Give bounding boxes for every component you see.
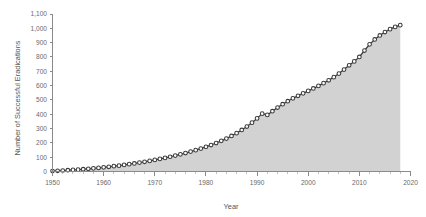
data-point-marker [184,151,188,155]
x-tick-label: 1960 [96,179,111,186]
data-point-marker [163,156,167,160]
data-point-marker [97,166,101,170]
data-point-marker [194,148,198,152]
x-axis-title: Year [224,202,239,211]
data-point-marker [76,168,80,172]
data-point-marker [112,164,116,168]
data-point-marker [158,157,162,161]
y-tick-label: 900 [36,39,47,46]
data-point-marker [122,163,126,167]
data-point-marker [132,162,136,166]
data-point-marker [383,30,387,34]
x-tick-label: 2020 [403,179,418,186]
data-point-marker [291,96,295,100]
data-point-marker [209,143,213,147]
data-point-marker [317,84,321,88]
data-point-marker [240,128,244,132]
data-point-marker [301,91,305,95]
x-axis-ticks [53,172,411,176]
data-point-marker [311,87,315,91]
y-tick-label: 300 [36,125,47,132]
data-point-marker [281,102,285,106]
data-point-marker [342,68,346,72]
data-point-marker [199,147,203,151]
data-point-marker [179,152,183,156]
eradications-area-chart: 01002003004005006007008009001,0001,100 1… [0,0,426,217]
data-point-marker [138,161,142,165]
data-point-marker [189,150,193,154]
data-point-marker [204,145,208,149]
data-point-marker [265,113,269,117]
y-tick-label: 0 [43,168,47,175]
x-tick-label: 1990 [250,179,265,186]
data-point-marker [332,75,336,79]
data-point-marker [378,34,382,38]
data-point-marker [260,112,264,116]
y-tick-label: 800 [36,53,47,60]
y-tick-label: 1,000 [30,25,47,32]
data-point-marker [337,72,341,76]
data-point-marker [168,155,172,159]
data-point-marker [388,27,392,31]
y-tick-label: 700 [36,68,47,75]
data-point-marker [148,159,152,163]
data-point-marker [255,117,259,121]
data-point-marker [117,164,121,168]
data-point-marker [296,94,300,98]
x-tick-label: 1950 [45,179,60,186]
y-tick-label: 200 [36,139,47,146]
data-point-marker [214,141,218,145]
data-point-marker [81,167,85,171]
data-point-marker [352,60,356,64]
y-tick-label: 600 [36,82,47,89]
data-point-marker [153,158,157,162]
data-point-marker [373,38,377,42]
data-point-marker [225,137,229,141]
data-point-marker [173,154,177,158]
data-point-marker [219,139,223,143]
y-tick-label: 1,100 [30,10,47,17]
data-point-marker [347,63,351,67]
y-axis-title: Number of Successful Eradications [13,40,22,155]
data-point-marker [398,23,402,27]
data-point-marker [271,109,275,113]
x-axis-tick-labels: 19501960197019801990200020102020 [45,179,418,186]
plot-area [51,23,402,173]
data-point-marker [56,169,60,173]
data-point-marker [368,43,372,47]
y-tick-label: 100 [36,154,47,161]
data-point-marker [92,167,96,171]
data-point-marker [393,25,397,29]
y-axis-tick-labels: 01002003004005006007008009001,0001,100 [30,10,47,175]
data-point-marker [143,160,147,164]
data-point-marker [245,125,249,129]
x-tick-label: 2010 [352,179,367,186]
data-point-marker [363,49,367,53]
x-tick-label: 2000 [301,179,316,186]
data-point-marker [322,81,326,85]
data-point-marker [230,134,234,138]
data-point-marker [127,162,131,166]
data-point-marker [358,55,362,59]
series-area-fill [53,25,401,171]
data-point-marker [86,167,90,171]
data-point-marker [306,89,310,93]
data-point-marker [102,166,106,170]
x-tick-label: 1970 [147,179,162,186]
y-tick-label: 500 [36,96,47,103]
chart-container: 01002003004005006007008009001,0001,100 1… [0,0,426,217]
data-point-marker [286,99,290,103]
data-point-marker [327,78,331,82]
data-point-marker [276,106,280,110]
data-point-marker [250,121,254,125]
data-point-marker [107,165,111,169]
data-point-marker [235,131,239,135]
y-tick-label: 400 [36,111,47,118]
x-tick-label: 1980 [199,179,214,186]
